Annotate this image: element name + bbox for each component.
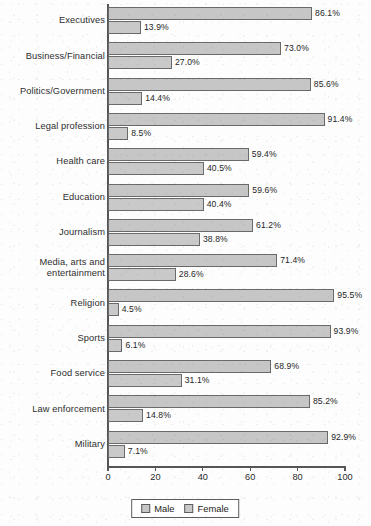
category-label: Military <box>0 439 105 450</box>
x-tick <box>344 466 345 471</box>
bar-male <box>108 289 334 302</box>
bar-value-label: 31.1% <box>185 374 210 387</box>
legend-swatch-icon <box>185 504 194 513</box>
legend-label: Male <box>154 503 174 514</box>
chart-legend: MaleFemale <box>131 499 239 518</box>
bar-value-label: 40.4% <box>207 198 232 211</box>
bar-value-label: 59.6% <box>252 184 277 197</box>
legend-item-female: Female <box>185 503 229 514</box>
bar-value-label: 85.6% <box>314 78 339 91</box>
category-label: Food service <box>0 368 105 379</box>
x-tick <box>107 466 108 471</box>
bar-value-label: 14.4% <box>145 92 170 105</box>
bar-female <box>108 127 128 140</box>
bar-male <box>108 148 249 161</box>
category-label: Health care <box>0 156 105 167</box>
category-label: Education <box>0 192 105 203</box>
bar-value-label: 40.5% <box>207 162 232 175</box>
bar-value-label: 95.5% <box>337 289 362 302</box>
x-tick <box>250 466 251 471</box>
category-label: Executives <box>0 15 105 26</box>
bar-female <box>108 198 204 211</box>
bar-male <box>108 254 277 267</box>
bar-male <box>108 42 281 55</box>
bar-female <box>108 445 125 458</box>
category-label: Sports <box>0 333 105 344</box>
bar-value-label: 61.2% <box>256 219 281 232</box>
bar-value-label: 92.9% <box>331 431 356 444</box>
bar-female <box>108 92 142 105</box>
x-tick-label: 0 <box>105 472 110 482</box>
bar-male <box>108 431 328 444</box>
bar-value-label: 85.2% <box>313 395 338 408</box>
legend-swatch-icon <box>141 504 150 513</box>
bar-value-label: 86.1% <box>315 7 340 20</box>
bar-female <box>108 233 200 246</box>
x-tick <box>297 466 298 471</box>
bar-value-label: 71.4% <box>280 254 305 267</box>
x-tick-label: 80 <box>292 472 302 482</box>
x-tick-label: 40 <box>198 472 208 482</box>
legend-label: Female <box>198 503 229 514</box>
bar-value-label: 14.8% <box>146 409 171 422</box>
bar-male <box>108 184 249 197</box>
bar-value-label: 73.0% <box>284 42 309 55</box>
x-tick <box>155 466 156 471</box>
category-label: Media, arts and entertainment <box>0 257 105 278</box>
x-tick-label: 100 <box>337 472 352 482</box>
bar-male <box>108 113 325 126</box>
bar-value-label: 6.1% <box>125 339 145 352</box>
legend-item-male: Male <box>141 503 174 514</box>
bar-male <box>108 395 310 408</box>
bar-female <box>108 409 143 422</box>
bar-value-label: 91.4% <box>328 113 353 126</box>
x-axis-line <box>107 466 346 468</box>
bar-value-label: 59.4% <box>252 148 277 161</box>
bar-female <box>108 21 141 34</box>
x-tick-label: 20 <box>150 472 160 482</box>
bar-male <box>108 7 312 20</box>
category-label: Journalism <box>0 227 105 238</box>
bar-male <box>108 78 311 91</box>
bar-female <box>108 339 122 352</box>
bar-female <box>108 162 204 175</box>
x-tick-label: 60 <box>245 472 255 482</box>
bar-value-label: 4.5% <box>122 303 142 316</box>
bar-male <box>108 325 331 338</box>
category-label: Business/Financial <box>0 51 105 62</box>
category-label: Legal profession <box>0 121 105 132</box>
category-label: Law enforcement <box>0 404 105 415</box>
bar-chart: ExecutivesBusiness/FinancialPolitics/Gov… <box>0 0 371 526</box>
bar-female <box>108 374 182 387</box>
category-label: Religion <box>0 298 105 309</box>
x-tick <box>202 466 203 471</box>
bar-value-label: 13.9% <box>144 21 169 34</box>
bar-value-label: 8.5% <box>131 127 151 140</box>
bar-value-label: 68.9% <box>274 360 299 373</box>
bar-male <box>108 360 271 373</box>
bar-value-label: 93.9% <box>334 325 359 338</box>
bar-female <box>108 56 172 69</box>
category-label: Politics/Government <box>0 86 105 97</box>
bar-value-label: 28.6% <box>179 268 204 281</box>
bar-value-label: 27.0% <box>175 56 200 69</box>
bar-value-label: 7.1% <box>128 445 148 458</box>
bar-male <box>108 219 253 232</box>
bar-value-label: 38.8% <box>203 233 228 246</box>
bar-female <box>108 303 119 316</box>
bar-female <box>108 268 176 281</box>
